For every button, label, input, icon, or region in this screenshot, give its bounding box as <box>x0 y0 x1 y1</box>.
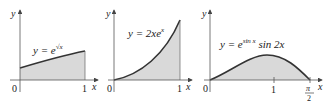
tick-two-3: 2 <box>307 94 311 103</box>
panel-1-sqrt-exp: y x 0 1 y = e√x <box>10 8 98 94</box>
function-label-2: y = 2xex <box>127 26 165 39</box>
tick-1-1: 1 <box>82 83 87 94</box>
panel-3-esinx-sin2x: y x 0 1 π 2 y = esin x sin 2x <box>201 8 323 103</box>
x-axis-label-3: x <box>317 81 323 92</box>
function-label-1: y = e√x <box>32 43 64 56</box>
shaded-area-3 <box>210 55 310 80</box>
tick-1-2: 1 <box>177 83 182 94</box>
tick-0-3: 0 <box>203 83 208 94</box>
tick-0-1: 0 <box>12 83 17 94</box>
y-axis-label-3: y <box>201 8 207 19</box>
tick-pi-3: π <box>306 84 311 93</box>
x-axis-label-1: x <box>91 81 97 92</box>
y-axis-label-1: y <box>10 8 16 19</box>
figure-three-panels: y x 0 1 y = e√x y x 0 1 y = 2xex y x 0 1… <box>0 0 333 103</box>
y-axis-label-2: y <box>105 8 111 19</box>
x-axis-label-2: x <box>185 81 191 92</box>
panel-2-2xex: y x 0 1 y = 2xex <box>105 8 192 94</box>
tick-1-3: 1 <box>271 84 276 95</box>
tick-0-2: 0 <box>107 83 112 94</box>
function-label-3: y = esin x sin 2x <box>219 37 285 50</box>
